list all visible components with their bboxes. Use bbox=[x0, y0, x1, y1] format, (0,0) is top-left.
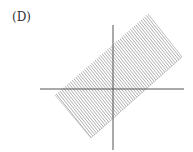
region-boundary bbox=[55, 14, 182, 138]
shaded-region bbox=[0, 0, 193, 152]
diagram bbox=[0, 0, 193, 152]
